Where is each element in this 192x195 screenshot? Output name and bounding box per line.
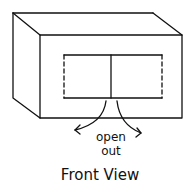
- box: [13, 13, 182, 118]
- box-top-left-diagonal: [13, 13, 40, 35]
- box-left-side-edge: [13, 13, 40, 118]
- open-label: open: [96, 130, 126, 144]
- front-view-caption: Front View: [61, 166, 139, 184]
- box-top-right-diagonal: [153, 13, 182, 35]
- cabinet-diagram: open out Front View: [0, 0, 192, 195]
- out-label: out: [101, 144, 121, 158]
- doors: [64, 55, 162, 98]
